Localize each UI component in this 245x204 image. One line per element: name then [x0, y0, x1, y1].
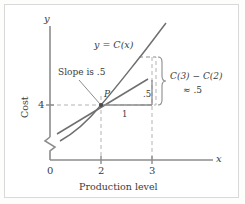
x-tick-label-3: 3 — [149, 166, 155, 176]
x-axis-name-label: x — [216, 154, 222, 164]
point-p-marker — [99, 103, 103, 107]
x-axis-title: Production level — [79, 182, 158, 192]
bracket-label-line1: C(3) − C(2) — [170, 72, 223, 81]
point-p-label: P — [104, 90, 110, 99]
tangent-line — [57, 79, 148, 134]
y-axis-name-label: y — [44, 14, 50, 24]
rise-label: .5 — [143, 90, 151, 99]
y-axis-break-zigzag — [45, 137, 55, 160]
x-tick-label-0: 0 — [47, 166, 53, 176]
run-label: 1 — [122, 110, 127, 119]
x-tick-label-2: 2 — [98, 166, 104, 176]
slope-note-leader-line — [79, 80, 100, 104]
plot-canvas — [0, 0, 245, 204]
y-axis-title: Cost — [20, 96, 30, 118]
slope-note-label: Slope is .5 — [58, 68, 105, 77]
curly-brace — [158, 57, 166, 105]
bracket-label-line2: ≈ .5 — [183, 86, 202, 95]
figure-container: y x Cost Production level 0 2 3 4 y = C(… — [0, 0, 245, 204]
curve-label: y = C(x) — [94, 40, 133, 50]
y-tick-label-4: 4 — [38, 100, 44, 110]
